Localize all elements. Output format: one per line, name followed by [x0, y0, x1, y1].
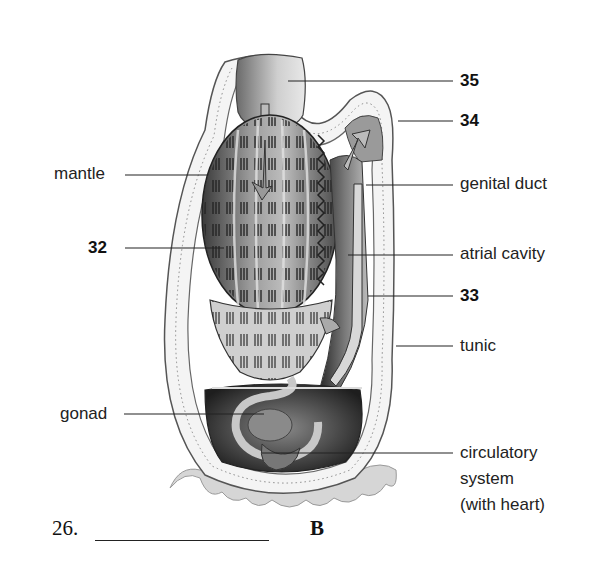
- figure-letter: B: [310, 516, 324, 541]
- answer-blank[interactable]: [95, 540, 269, 541]
- label-genital-duct: genital duct: [460, 174, 547, 194]
- label-gonad: gonad: [60, 404, 107, 424]
- label-mantle: mantle: [54, 164, 105, 184]
- callout-34: 34: [460, 111, 479, 131]
- label-tunic: tunic: [460, 336, 496, 356]
- callout-32: 32: [88, 238, 107, 258]
- question-number: 26.: [52, 516, 78, 541]
- label-atrial-cavity: atrial cavity: [460, 244, 545, 264]
- label-circulatory-line1: circulatory: [460, 443, 537, 463]
- label-circulatory-line2: system: [460, 469, 514, 489]
- label-circulatory-line3: (with heart): [460, 495, 545, 515]
- callout-35: 35: [460, 71, 479, 91]
- callout-33: 33: [460, 286, 479, 306]
